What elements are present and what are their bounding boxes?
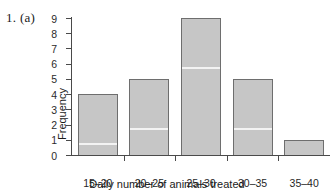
x-axis-title: Daily number of animals treated bbox=[0, 178, 334, 190]
y-axis-line bbox=[71, 17, 72, 156]
problem-label: 1. (a) bbox=[6, 10, 35, 26]
bar bbox=[284, 140, 324, 155]
bar bbox=[129, 79, 169, 155]
x-axis-tick bbox=[227, 156, 228, 161]
y-axis-tick: 9 bbox=[66, 18, 71, 19]
y-axis-tick-label: 9 bbox=[51, 13, 57, 24]
x-axis-tick bbox=[175, 156, 176, 161]
x-axis-tick bbox=[124, 156, 125, 161]
bar bbox=[78, 94, 118, 155]
bar bbox=[233, 79, 273, 155]
x-axis-tick bbox=[278, 156, 279, 161]
x-axis-line bbox=[71, 155, 330, 156]
bar bbox=[181, 18, 221, 155]
chart-plot-area: 0123456789 15–2020–2525–3030–3535–40 Fre… bbox=[72, 18, 330, 155]
y-axis-tick-label: 0 bbox=[51, 150, 57, 161]
y-axis-title: Frequency bbox=[56, 40, 68, 140]
y-axis-tick: 8 bbox=[66, 33, 71, 34]
figure-container: 1. (a) 0123456789 15–2020–2525–3030–3535… bbox=[0, 0, 334, 195]
y-axis-tick-label: 8 bbox=[51, 28, 57, 39]
y-axis-tick: 0 bbox=[66, 155, 71, 156]
